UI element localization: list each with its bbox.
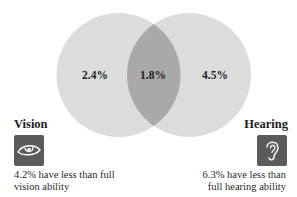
vision-title: Vision — [14, 117, 48, 132]
vision-description: 4.2% have less than full vision ability — [14, 169, 115, 192]
hearing-title: Hearing — [244, 117, 288, 132]
vision-only-value: 2.4% — [82, 69, 108, 81]
hearing-description-line1: 6.3% have less than — [203, 169, 286, 181]
eye-icon — [14, 135, 44, 166]
hearing-only-value: 4.5% — [202, 69, 228, 81]
vision-icon-box — [14, 135, 44, 166]
hearing-icon-box — [257, 135, 287, 166]
ear-icon — [257, 135, 287, 166]
overlap-value: 1.8% — [140, 69, 166, 81]
hearing-description-line2: full hearing ability — [203, 181, 286, 193]
hearing-description: 6.3% have less than full hearing ability — [203, 169, 286, 192]
vision-description-line2: vision ability — [14, 181, 115, 193]
venn-diagram — [0, 0, 297, 197]
venn-circles — [0, 0, 297, 197]
vision-description-line1: 4.2% have less than full — [14, 169, 115, 181]
